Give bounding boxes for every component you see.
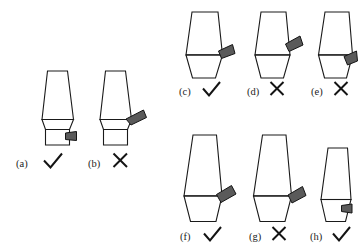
panel-e-mark-cross xyxy=(335,82,348,95)
panel-a: (a) xyxy=(16,71,77,170)
panel-g: (g) xyxy=(249,135,306,243)
figure-drawing: (a) (b) (c) xyxy=(0,0,361,252)
panel-d-lower-body xyxy=(255,55,290,78)
panel-g-label: (g) xyxy=(249,231,262,243)
panel-a-wedge xyxy=(66,132,77,141)
panel-c-mark-check xyxy=(203,82,220,96)
panel-b: (b) xyxy=(88,71,147,170)
panel-d-upper-body xyxy=(255,12,290,55)
panel-h-upper-body xyxy=(321,148,351,200)
panel-g-mark-cross xyxy=(273,227,286,240)
panel-f: (f) xyxy=(180,135,236,243)
panel-f-mark-check xyxy=(204,227,221,241)
panel-a-label: (a) xyxy=(16,158,28,170)
figure-canvas: (a) (b) (c) xyxy=(0,0,361,252)
panel-h-wedge xyxy=(342,204,353,213)
panel-b-label: (b) xyxy=(88,158,101,170)
panel-d: (d) xyxy=(247,12,303,98)
panel-g-lower-body xyxy=(254,196,292,222)
panel-a-upper-body xyxy=(42,71,74,120)
panel-b-mark-cross xyxy=(114,154,128,168)
panel-h: (h) xyxy=(310,148,352,243)
panel-c-lower-body xyxy=(186,55,223,78)
panel-c: (c) xyxy=(179,12,235,98)
panel-b-neck xyxy=(100,120,132,130)
panel-g-upper-body xyxy=(254,135,292,196)
panel-e-label: (e) xyxy=(311,86,323,98)
panel-f-lower-body xyxy=(184,196,222,222)
panel-h-label: (h) xyxy=(310,231,323,243)
panel-b-base xyxy=(104,130,128,146)
panel-e-upper-body xyxy=(319,12,353,55)
panel-e: (e) xyxy=(311,12,358,98)
panel-a-mark-check xyxy=(44,154,62,168)
panel-a-neck xyxy=(42,120,74,130)
panel-d-label: (d) xyxy=(247,86,260,98)
panel-b-upper-body xyxy=(100,71,132,120)
panel-d-mark-cross xyxy=(271,82,284,95)
panel-c-upper-body xyxy=(186,12,223,55)
panel-f-upper-body xyxy=(184,135,222,196)
panel-c-label: (c) xyxy=(179,86,191,98)
panel-f-label: (f) xyxy=(180,231,191,243)
panel-h-mark-check xyxy=(333,227,350,241)
